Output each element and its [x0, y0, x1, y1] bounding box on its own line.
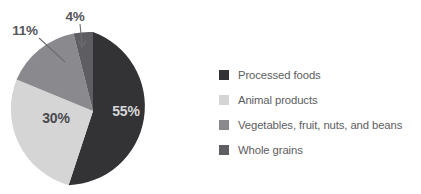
legend-swatch-icon [219, 145, 229, 155]
legend-item-label: Vegetables, fruit, nuts, and beans [238, 119, 402, 131]
legend-item-label: Whole grains [238, 144, 303, 156]
legend-item-label: Processed foods [238, 69, 321, 81]
legend-item-whole-grains[interactable]: Whole grains [219, 137, 419, 162]
pie-slice-label-30: 30% [42, 110, 70, 126]
pie-chart: 55% 30% 11% 4% Processed foods Animal pr… [0, 0, 421, 194]
legend-swatch-icon [219, 70, 229, 80]
legend-item-processed-foods[interactable]: Processed foods [219, 62, 419, 87]
chart-legend: Processed foods Animal products Vegetabl… [219, 62, 419, 162]
legend-swatch-icon [219, 120, 229, 130]
legend-item-label: Animal products [238, 94, 318, 106]
pie-callout-label-11: 11% [12, 23, 38, 38]
legend-swatch-icon [219, 95, 229, 105]
pie-callout-label-4: 4% [65, 9, 84, 24]
pie-slice-label-55: 55% [112, 103, 140, 119]
legend-item-animal-products[interactable]: Animal products [219, 87, 419, 112]
legend-item-vegetables-fruit-nuts-beans[interactable]: Vegetables, fruit, nuts, and beans [219, 112, 419, 137]
